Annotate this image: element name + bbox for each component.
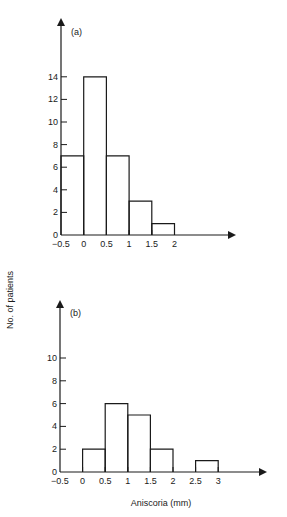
panel-a-label: (a) bbox=[71, 27, 82, 37]
x-tick-label: 2 bbox=[170, 476, 175, 486]
panel-a-histogram bbox=[61, 77, 175, 235]
x-tick-label: 2 bbox=[172, 239, 177, 249]
x-tick-label: −0.5 bbox=[52, 239, 70, 249]
x-tick-label: 3 bbox=[216, 476, 221, 486]
histogram-bin bbox=[105, 404, 128, 472]
histogram-bin bbox=[150, 449, 173, 472]
histogram-bin bbox=[128, 415, 151, 472]
y-tick-label: 2 bbox=[53, 207, 58, 217]
histogram-bin bbox=[61, 156, 84, 235]
x-tick-label: 0 bbox=[80, 476, 85, 486]
panel-a-axes: 02468101214−0.500.511.52 bbox=[48, 20, 234, 249]
y-tick-label: 8 bbox=[52, 376, 57, 386]
y-tick-label: 10 bbox=[48, 117, 58, 127]
panel-b-axes: 0246810−0.500.511.522.53 bbox=[47, 302, 265, 486]
panel-a-chart: 02468101214−0.500.511.52 (a) bbox=[48, 20, 234, 249]
x-tick-label: 0.5 bbox=[100, 239, 113, 249]
x-tick-label: 0 bbox=[81, 239, 86, 249]
y-tick-label: 4 bbox=[52, 421, 57, 431]
y-tick-label: 2 bbox=[52, 444, 57, 454]
panel-b-chart: 0246810−0.500.511.522.53 (b) bbox=[47, 302, 265, 486]
y-tick-label: 14 bbox=[48, 72, 58, 82]
histogram-bin bbox=[84, 77, 107, 235]
x-tick-label: −0.5 bbox=[51, 476, 69, 486]
y-axis-title: No. of patients bbox=[5, 270, 15, 329]
histogram-figure: 02468101214−0.500.511.52 (a) 0246810−0.5… bbox=[0, 0, 287, 517]
histogram-bin bbox=[83, 449, 106, 472]
histogram-bin bbox=[129, 201, 152, 235]
x-tick-label: 0.5 bbox=[99, 476, 112, 486]
x-tick-label: 1.5 bbox=[146, 239, 159, 249]
x-tick-label: 1 bbox=[127, 239, 132, 249]
panel-b-label: (b) bbox=[70, 308, 81, 318]
histogram-bin bbox=[152, 224, 175, 235]
x-tick-label: 2.5 bbox=[189, 476, 202, 486]
y-tick-label: 6 bbox=[53, 162, 58, 172]
histogram-bin bbox=[196, 461, 219, 472]
y-tick-label: 10 bbox=[47, 353, 57, 363]
y-tick-label: 4 bbox=[53, 185, 58, 195]
y-tick-label: 12 bbox=[48, 94, 58, 104]
histogram-bin bbox=[106, 156, 129, 235]
x-tick-label: 1.5 bbox=[144, 476, 157, 486]
x-tick-label: 1 bbox=[125, 476, 130, 486]
panel-b-histogram bbox=[83, 404, 219, 472]
x-axis-title: Aniscoria (mm) bbox=[131, 498, 192, 508]
y-tick-label: 6 bbox=[52, 399, 57, 409]
y-tick-label: 8 bbox=[53, 140, 58, 150]
